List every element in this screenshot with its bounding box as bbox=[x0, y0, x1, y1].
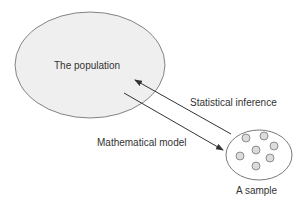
sample-dot bbox=[266, 154, 274, 162]
population-label: The population bbox=[54, 60, 120, 71]
mathematical-model-label: Mathematical model bbox=[97, 137, 186, 148]
statistical-inference-label: Statistical inference bbox=[190, 97, 277, 108]
sample-dot bbox=[252, 146, 260, 154]
sample-dot bbox=[236, 152, 244, 160]
sample-dot bbox=[270, 142, 278, 150]
sample-label: A sample bbox=[236, 185, 278, 196]
sample-dot bbox=[260, 132, 268, 140]
sample-dot bbox=[242, 134, 250, 142]
sample-group: A sample bbox=[226, 130, 292, 196]
population-sample-diagram: The population A sample Statistical infe… bbox=[0, 0, 307, 204]
sample-dot bbox=[252, 162, 260, 170]
population-group: The population bbox=[15, 12, 165, 118]
